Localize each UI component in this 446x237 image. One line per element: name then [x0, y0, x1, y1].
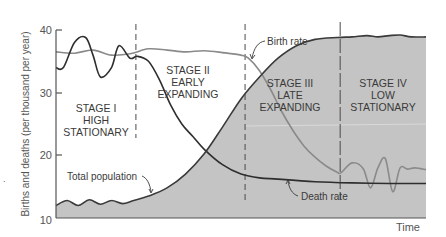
stage-2-label: STAGE II EARLY EXPANDING	[157, 64, 218, 100]
x-axis-title: Time	[396, 221, 420, 233]
y-axis-title: Births and deaths (per thousand per year…	[20, 31, 31, 216]
y-ticks	[56, 30, 62, 155]
svg-text:LOW: LOW	[371, 89, 395, 101]
y-tick-10: 10	[40, 214, 52, 226]
stray-mark: .	[3, 174, 6, 184]
svg-text:HIGH: HIGH	[83, 114, 109, 126]
svg-text:LATE: LATE	[277, 89, 302, 101]
svg-text:STAGE II: STAGE II	[166, 64, 210, 76]
stage-1-label: STAGE I HIGH STATIONARY	[63, 102, 128, 138]
total-population-annotation: Total population	[67, 171, 153, 193]
y-tick-30: 30	[40, 87, 52, 99]
svg-text:Death rate: Death rate	[301, 191, 348, 202]
svg-text:STAGE III: STAGE III	[267, 77, 313, 89]
y-tick-20: 20	[40, 149, 52, 161]
svg-text:STAGE I: STAGE I	[76, 102, 117, 114]
svg-text:STATIONARY: STATIONARY	[350, 101, 415, 113]
svg-text:EXPANDING: EXPANDING	[157, 88, 218, 100]
y-tick-40: 40	[40, 24, 52, 36]
svg-text:Total population: Total population	[67, 171, 137, 182]
svg-text:STAGE IV: STAGE IV	[359, 77, 407, 89]
svg-text:Birth rate: Birth rate	[267, 36, 308, 47]
demographic-transition-chart: 40 30 20 10 Births and deaths (per thous…	[0, 0, 446, 237]
svg-text:STATIONARY: STATIONARY	[63, 126, 128, 138]
svg-text:EARLY: EARLY	[171, 76, 205, 88]
svg-text:EXPANDING: EXPANDING	[259, 101, 320, 113]
